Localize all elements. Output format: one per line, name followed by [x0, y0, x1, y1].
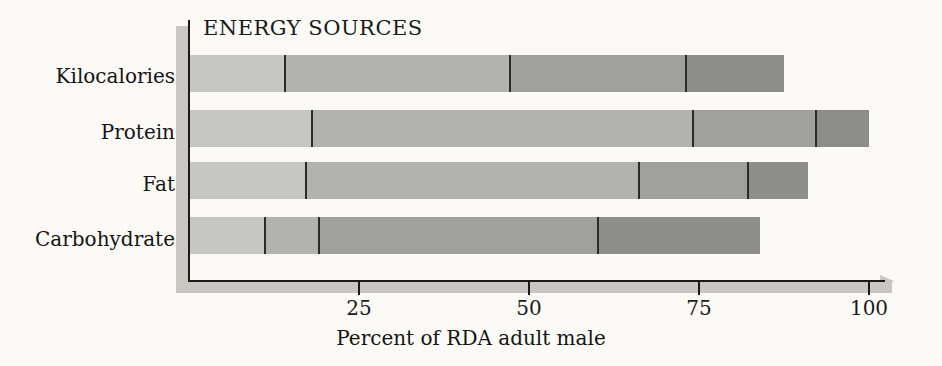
bar-segment — [685, 55, 784, 92]
bar-segment — [597, 217, 760, 254]
x-axis-tick-25 — [358, 282, 360, 295]
bar-segment — [189, 55, 284, 92]
x-axis-tick-label-75: 75 — [686, 296, 711, 320]
bar-segment — [311, 110, 692, 147]
bar-segment — [189, 110, 311, 147]
bar-segment — [815, 110, 869, 147]
x-axis-tick-label-100: 100 — [850, 296, 888, 320]
y-axis-line — [188, 20, 190, 282]
y-axis-label-protein: Protein — [101, 120, 175, 144]
chart-figure: ENERGY SOURCES 255075100 Kilocalories Pr… — [0, 0, 942, 366]
bar-segment — [509, 55, 686, 92]
y-axis-label-kilocalories: Kilocalories — [56, 64, 175, 88]
x-axis-tick-75 — [698, 282, 700, 295]
y-axis-label-fat: Fat — [143, 172, 175, 196]
x-axis-tick-label-25: 25 — [346, 296, 371, 320]
y-axis-label-carbohydrate: Carbohydrate — [35, 227, 175, 251]
x-axis-tick-100 — [868, 282, 870, 295]
bar-segment — [189, 162, 305, 199]
x-axis-shadow-tip — [880, 275, 894, 293]
bar-segment — [318, 217, 597, 254]
bar-segment — [189, 217, 264, 254]
bar-segment — [638, 162, 747, 199]
bar-protein — [189, 110, 869, 147]
page-title: ENERGY SOURCES — [203, 16, 423, 40]
bar-segment — [747, 162, 808, 199]
bar-segment — [284, 55, 508, 92]
x-axis-tick-50 — [528, 282, 530, 295]
bar-segment — [264, 217, 318, 254]
x-axis-shadow — [176, 281, 892, 293]
bar-segment — [305, 162, 638, 199]
bar-fat — [189, 162, 808, 199]
x-axis-title: Percent of RDA adult male — [0, 326, 942, 350]
bar-carbohydrate — [189, 217, 760, 254]
bar-segment — [692, 110, 814, 147]
x-axis-line — [188, 280, 885, 282]
bar-kilocalories — [189, 55, 784, 92]
x-axis-tick-label-50: 50 — [516, 296, 541, 320]
